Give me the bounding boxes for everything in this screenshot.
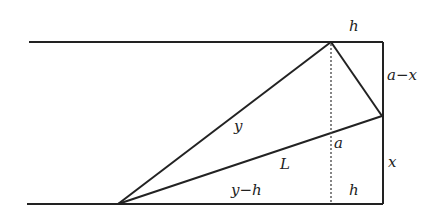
flap-short-edge	[331, 42, 382, 116]
label-bottom-h: h	[349, 181, 359, 199]
label-L: L	[279, 155, 290, 173]
label-a: a	[334, 134, 343, 152]
label-x: x	[388, 153, 397, 171]
label-a-minus-x: a−x	[387, 66, 418, 84]
label-y-minus-h: y−h	[230, 181, 262, 199]
label-y: y	[233, 117, 243, 135]
label-top-h: h	[349, 17, 359, 35]
fold-diagram: h a−x y a L x y−h h	[0, 0, 444, 221]
fold-edge-y	[118, 42, 331, 204]
